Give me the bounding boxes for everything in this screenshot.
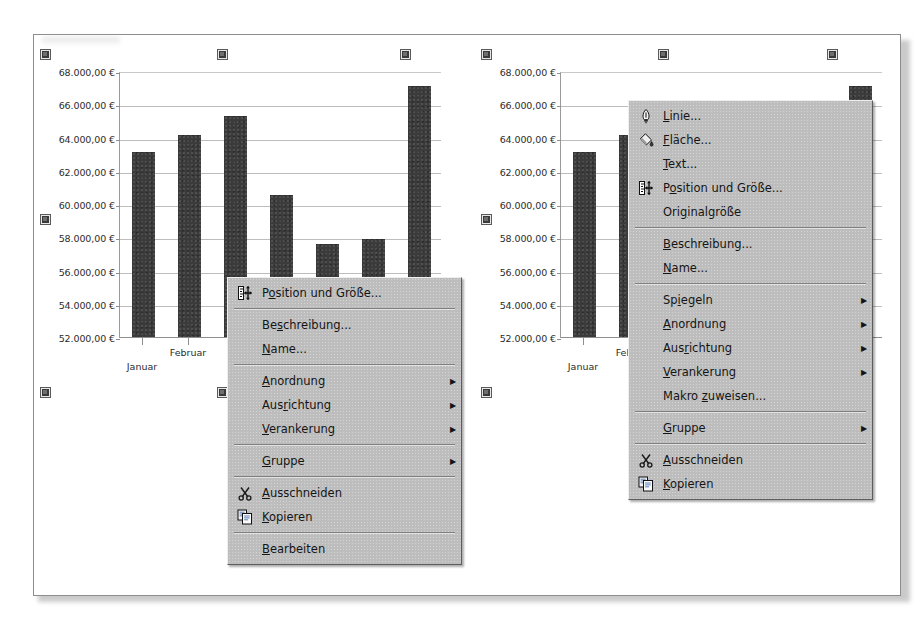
menu-item-label: Linie... [663,109,856,123]
x-axis-tick-mark [188,338,189,345]
y-axis-tick-label: 54.000,00 € [59,299,115,310]
menu-item-label: Fläche... [663,133,856,147]
y-axis-labels: 68.000,00 €66.000,00 €64.000,00 €62.000,… [482,72,560,338]
copy-icon [629,472,663,496]
menu-item[interactable]: Verankerung▶ [629,360,872,384]
y-axis-tick-label: 56.000,00 € [59,266,115,277]
menu-item[interactable]: Name... [629,256,872,280]
y-axis-tick-label: 58.000,00 € [59,233,115,244]
menu-icon-none [228,393,262,417]
chevron-right-icon: ▶ [445,377,461,386]
x-axis-tick-mark [142,338,143,345]
y-axis-tick-label: 66.000,00 € [59,100,115,111]
menu-item-label: Originalgröße [663,205,856,219]
menu-item[interactable]: Beschreibung... [228,313,461,337]
menu-item[interactable]: Anordnung▶ [228,369,461,393]
y-axis-tick-mark [116,140,120,141]
menu-separator [234,308,455,310]
gridline [120,140,441,141]
y-axis-tick-label: 56.000,00 € [500,266,556,277]
y-axis-tick-label: 68.000,00 € [59,67,115,78]
menu-separator [234,532,455,534]
y-axis-tick-mark [557,239,561,240]
menu-item-label: Beschreibung... [262,318,445,332]
scan-artifact [42,37,120,46]
menu-item-label: Makro zuweisen... [663,389,856,403]
gridline [120,173,441,174]
menu-item[interactable]: Ausrichtung▶ [629,336,872,360]
menu-item[interactable]: Fläche... [629,128,872,152]
menu-item-label: Name... [663,261,856,275]
y-axis-tick-mark [557,206,561,207]
menu-item-label: Text... [663,157,856,171]
y-axis-tick-mark [557,306,561,307]
y-axis-tick-mark [116,173,120,174]
menu-item[interactable]: Verankerung▶ [228,417,461,441]
menu-item-label: Ausrichtung [262,398,445,412]
menu-icon-none [228,449,262,473]
menu-item-label: Name... [262,342,445,356]
x-axis-tick-mark [583,338,584,345]
chevron-right-icon: ▶ [856,368,872,377]
object-context-menu-short[interactable]: Position und Größe...Beschreibung...Name… [227,277,462,565]
bar [132,152,155,337]
y-axis-tick-label: 60.000,00 € [500,200,556,211]
menu-item[interactable]: Kopieren [629,472,872,496]
menu-item-label: Verankerung [262,422,445,436]
x-axis-tick-label: Januar [568,361,598,372]
y-axis-tick-mark [116,239,120,240]
gridline [120,106,441,107]
menu-separator [635,411,866,413]
menu-item-label: Gruppe [663,421,856,435]
menu-item[interactable]: Gruppe▶ [629,416,872,440]
menu-separator [234,476,455,478]
menu-item-label: Position und Größe... [663,181,856,195]
menu-icon-none [629,384,663,408]
menu-icon-none [228,369,262,393]
menu-item[interactable]: Kopieren [228,505,461,529]
menu-item[interactable]: Gruppe▶ [228,449,461,473]
y-axis-tick-label: 64.000,00 € [59,133,115,144]
menu-item-label: Verankerung [663,365,856,379]
screenshot-root: 68.000,00 €66.000,00 €64.000,00 €62.000,… [0,0,923,641]
y-axis-tick-label: 52.000,00 € [500,333,556,344]
menu-item[interactable]: Text... [629,152,872,176]
copy-icon [228,505,262,529]
y-axis-tick-mark [116,106,120,107]
menu-icon-none [629,288,663,312]
y-axis-tick-mark [557,106,561,107]
y-axis-tick-mark [116,73,120,74]
menu-item-label: Kopieren [663,477,856,491]
menu-item-label: Ausschneiden [663,453,856,467]
menu-icon-none [629,152,663,176]
menu-separator [234,364,455,366]
menu-separator [635,283,866,285]
menu-icon-none [629,360,663,384]
menu-item[interactable]: Ausschneiden [228,481,461,505]
menu-item[interactable]: Makro zuweisen... [629,384,872,408]
y-axis-tick-label: 60.000,00 € [59,200,115,211]
menu-item[interactable]: Position und Größe... [228,281,461,305]
menu-item[interactable]: Beschreibung... [629,232,872,256]
menu-icon-none [228,417,262,441]
menu-item[interactable]: Position und Größe... [629,176,872,200]
menu-icon-none [228,537,262,561]
menu-separator [635,227,866,229]
menu-item[interactable]: Name... [228,337,461,361]
menu-icon-none [629,416,663,440]
menu-item[interactable]: Originalgröße [629,200,872,224]
menu-item[interactable]: Linie... [629,104,872,128]
pen-nib-icon [629,104,663,128]
menu-item[interactable]: Bearbeiten [228,537,461,561]
y-axis-tick-label: 58.000,00 € [500,233,556,244]
menu-item[interactable]: Spiegeln▶ [629,288,872,312]
chevron-right-icon: ▶ [445,425,461,434]
menu-item[interactable]: Anordnung▶ [629,312,872,336]
menu-item[interactable]: Ausrichtung▶ [228,393,461,417]
menu-item-label: Anordnung [262,374,445,388]
y-axis-tick-label: 66.000,00 € [500,100,556,111]
menu-item[interactable]: Ausschneiden [629,448,872,472]
menu-separator [635,443,866,445]
object-context-menu-full[interactable]: Linie... Fläche...Text... Position und G… [628,100,873,500]
menu-item-label: Spiegeln [663,293,856,307]
